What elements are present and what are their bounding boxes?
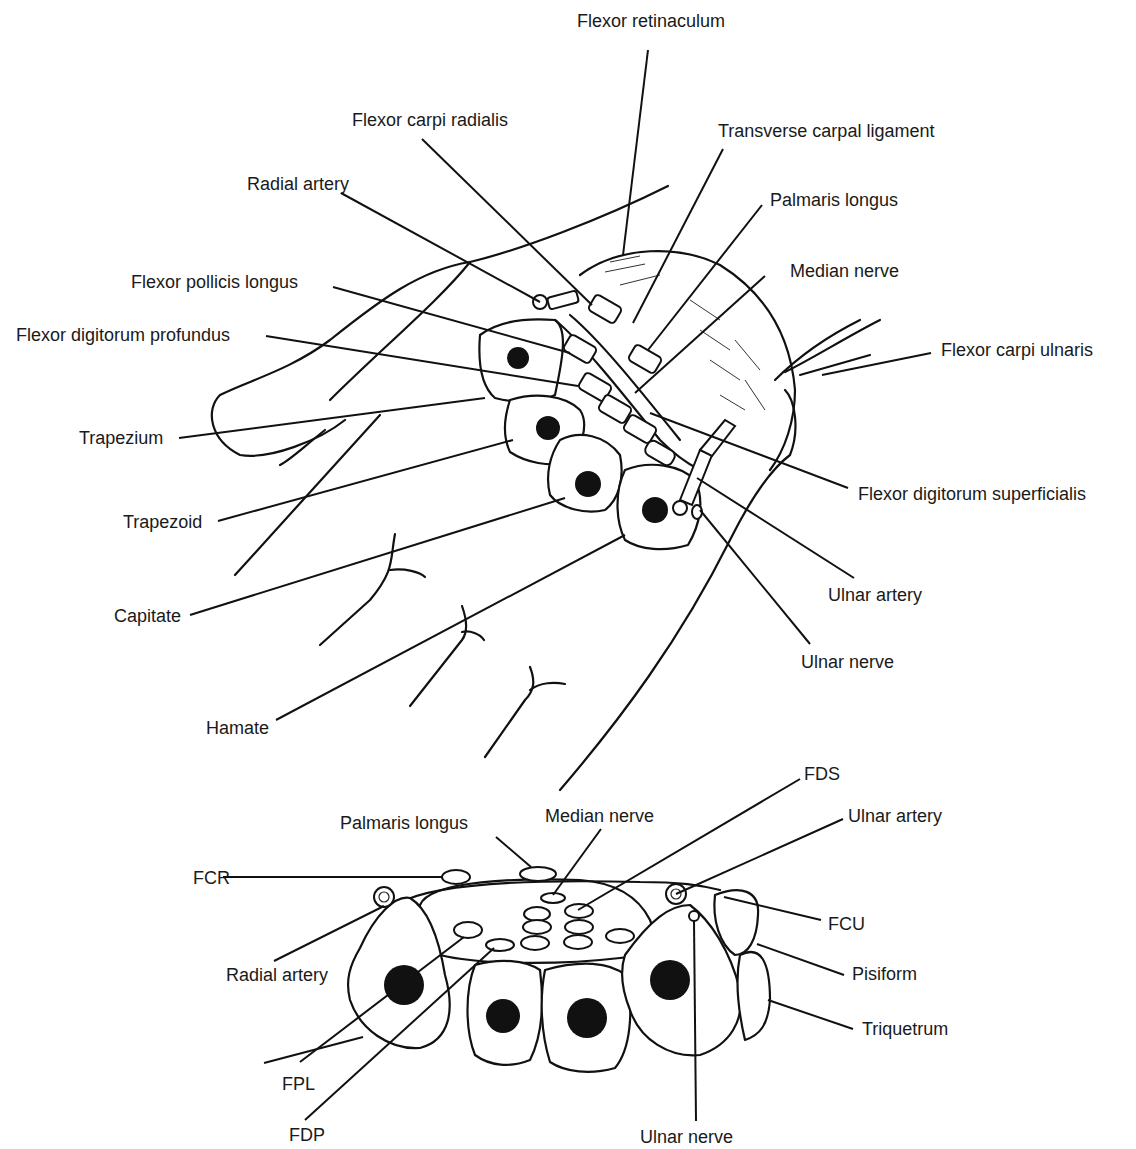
label-ulnar-artery: Ulnar artery (828, 585, 922, 605)
label-palmaris-longus: Palmaris longus (770, 190, 898, 210)
label-ulnar-nerve-cs: Ulnar nerve (640, 1127, 733, 1147)
label-flexor-carpi-radialis: Flexor carpi radialis (352, 110, 508, 130)
cross-section-labels: FDS Palmaris longus Median nerve Ulnar a… (193, 764, 948, 1147)
label-median-nerve-cs: Median nerve (545, 806, 654, 826)
label-radial-artery: Radial artery (247, 174, 349, 194)
label-hamate: Hamate (206, 718, 269, 738)
label-ulnar-nerve: Ulnar nerve (801, 652, 894, 672)
label-pisiform: Pisiform (852, 964, 917, 984)
label-ulnar-artery-cs: Ulnar artery (848, 806, 942, 826)
carpal-tunnel-diagram: Flexor retinaculum Flexor carpi radialis… (0, 0, 1136, 1149)
cross-section (348, 867, 770, 1072)
label-palmaris-longus-cs: Palmaris longus (340, 813, 468, 833)
label-radial-artery-cs: Radial artery (226, 965, 328, 985)
label-transverse-carpal-ligament: Transverse carpal ligament (718, 121, 934, 141)
hand-outline (212, 186, 880, 790)
flexor-retinaculum-band (580, 251, 795, 470)
ulnar-nerve-section (689, 911, 699, 921)
label-trapezoid: Trapezoid (123, 512, 202, 532)
label-flexor-digitorum-profundus: Flexor digitorum profundus (16, 325, 230, 345)
tendon-palmaris-longus (520, 867, 556, 881)
tendon-fcr (442, 870, 470, 884)
radial-artery-section (374, 887, 394, 907)
label-flexor-pollicis-longus: Flexor pollicis longus (131, 272, 298, 292)
label-median-nerve: Median nerve (790, 261, 899, 281)
label-fds: FDS (804, 764, 840, 784)
label-triquetrum: Triquetrum (862, 1019, 948, 1039)
label-fpl: FPL (282, 1074, 315, 1094)
label-flexor-carpi-ulnaris: Flexor carpi ulnaris (941, 340, 1093, 360)
label-fcu: FCU (828, 914, 865, 934)
label-trapezium: Trapezium (79, 428, 163, 448)
label-capitate: Capitate (114, 606, 181, 626)
label-fdp: FDP (289, 1125, 325, 1145)
label-flexor-digitorum-superficialis: Flexor digitorum superficialis (858, 484, 1086, 504)
label-flexor-retinaculum: Flexor retinaculum (577, 11, 725, 31)
